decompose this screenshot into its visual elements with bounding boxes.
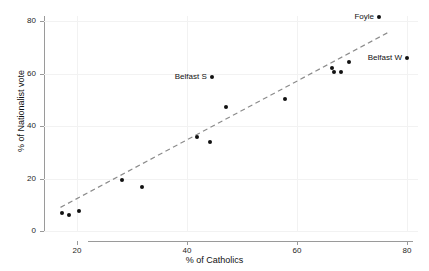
data-point[interactable] (140, 185, 144, 189)
y-tick-label: 0 (16, 227, 36, 235)
x-tick-label: 20 (64, 247, 90, 255)
x-tick-mark (297, 241, 298, 245)
data-point[interactable] (283, 97, 287, 101)
gridline-horizontal (44, 21, 418, 22)
x-tick-label: 40 (174, 247, 200, 255)
x-tick-mark (407, 241, 408, 245)
data-point[interactable] (347, 60, 351, 64)
x-tick-mark (77, 241, 78, 245)
data-point[interactable] (60, 211, 64, 215)
gridline-horizontal (44, 74, 418, 75)
scatter-chart-figure: 020406080 20406080 % of Nationalist vote… (0, 0, 429, 271)
y-tick-label: 80 (16, 17, 36, 25)
data-point[interactable] (120, 178, 124, 182)
data-point-label: Foyle (354, 13, 379, 21)
gridline-vertical (407, 16, 408, 231)
x-axis-title: % of Catholics (0, 255, 429, 265)
trend-line-segment (61, 32, 390, 208)
plot-area: Belfast SFoyleBelfast W (44, 16, 418, 231)
x-tick-label: 60 (284, 247, 310, 255)
x-axis-line (88, 241, 413, 242)
data-point-label: Belfast S (175, 73, 212, 81)
gridline-vertical (297, 16, 298, 231)
gridline-horizontal (44, 126, 418, 127)
gridline-horizontal (44, 179, 418, 180)
gridline-vertical (187, 16, 188, 231)
x-tick-mark (187, 241, 188, 245)
y-axis-title: % of Nationalist vote (16, 41, 26, 181)
data-point[interactable] (208, 140, 212, 144)
data-point[interactable] (224, 105, 228, 109)
x-tick-label: 80 (394, 247, 420, 255)
data-point-label: Belfast W (368, 54, 407, 62)
gridline-vertical (77, 16, 78, 231)
gridline-horizontal (44, 231, 418, 232)
trend-line (44, 16, 418, 231)
data-point[interactable] (77, 209, 81, 213)
data-point[interactable] (195, 135, 199, 139)
data-point[interactable] (67, 213, 71, 217)
